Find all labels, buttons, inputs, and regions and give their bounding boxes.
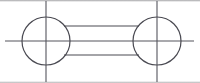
figure-canvas: [0, 0, 200, 83]
line-drawing: [0, 0, 200, 83]
